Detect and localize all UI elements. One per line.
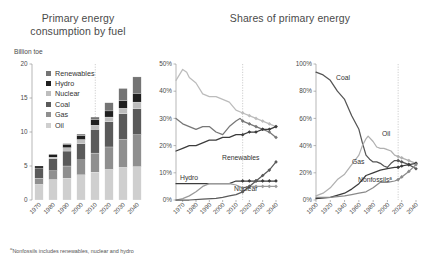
- series-marker-oil: [241, 111, 245, 115]
- bar-segment-hydro: [105, 111, 113, 117]
- line-chart-shares-century: 0%20%40%60%80%100%1900192019401960198020…: [292, 58, 430, 228]
- bar-segment-gas: [77, 160, 85, 175]
- x-tick-label: 1920: [319, 200, 334, 215]
- series-marker-gas: [267, 127, 271, 131]
- page-title-left: Primary energy consumption by fuel: [12, 12, 144, 37]
- series-line-gas: [176, 135, 243, 151]
- figure-root: Primary energy consumption by fuel Share…: [0, 0, 436, 268]
- y-tick-label: 10%: [159, 169, 172, 176]
- bar-segment-oil: [49, 180, 57, 200]
- legend-label: Nuclear: [55, 89, 80, 98]
- legend-swatch-icon: [46, 91, 51, 96]
- bar-segment-gas: [133, 135, 141, 167]
- legend-label: Hydro: [55, 79, 74, 88]
- x-tick-label: 1980: [42, 200, 57, 215]
- series-marker-oil: [396, 155, 400, 159]
- x-tick-label: 1940: [333, 200, 348, 215]
- bar-segment-nuclear: [119, 108, 127, 113]
- series-marker-nuclear: [274, 185, 278, 189]
- x-tick-label: 2020: [238, 200, 253, 215]
- bar-segment-gas: [119, 139, 127, 167]
- legend-item-gas: Gas: [46, 110, 95, 120]
- bar-segment-coal: [105, 122, 113, 147]
- series-marker-oil: [247, 114, 251, 118]
- legend-swatch-icon: [46, 102, 51, 107]
- x-tick-label: 1990: [198, 200, 213, 215]
- series-marker-coal: [400, 160, 404, 164]
- series-label-nonfossils: Nonfossilsa: [358, 176, 392, 183]
- y-tick-label: 0%: [303, 196, 313, 203]
- bar-segment-oil: [119, 167, 127, 200]
- footnote: aNonfossils includes renewables, nuclear…: [10, 246, 134, 254]
- series-marker-oil: [407, 159, 411, 163]
- y-tick-label: 15: [20, 94, 28, 101]
- series-line-coal: [316, 72, 398, 167]
- series-line-coal: [176, 118, 243, 134]
- x-tick-label: 2030: [112, 200, 127, 215]
- series-label-renewables: Renewables: [222, 154, 260, 161]
- y-tick-label: 20%: [159, 142, 172, 149]
- x-tick-label: 2000: [376, 200, 391, 215]
- series-line-oil: [243, 113, 276, 127]
- series-marker-hydro: [247, 179, 251, 183]
- series-marker-gas: [241, 133, 245, 137]
- bar-segment-coal: [119, 114, 127, 140]
- legend-swatch-icon: [46, 81, 51, 86]
- x-tick-label: 2040: [405, 200, 420, 215]
- legend-label: Renewables: [55, 69, 95, 78]
- bar-segment-nuclear: [49, 157, 57, 158]
- series-marker-coal: [247, 122, 251, 126]
- x-tick-label: 2040: [265, 200, 280, 215]
- x-tick-label: 1980: [362, 200, 377, 215]
- x-tick-label: 2010: [225, 200, 240, 215]
- series-marker-coal: [254, 125, 258, 129]
- y-tick-label: 50%: [159, 60, 172, 67]
- bar-segment-gas: [63, 166, 71, 178]
- series-label-gas: Gas: [352, 158, 365, 165]
- bar-segment-oil: [105, 169, 113, 200]
- bar-segment-hydro: [77, 135, 85, 139]
- legend-item-oil: Oil: [46, 120, 95, 130]
- x-tick-label: 2000: [70, 200, 85, 215]
- series-label-coal: Coal: [336, 74, 350, 81]
- series-marker-gas: [396, 166, 400, 170]
- y-tick-label: 5: [24, 162, 28, 169]
- bar-segment-nuclear: [105, 117, 113, 122]
- legend-item-coal: Coal: [46, 99, 95, 109]
- bar-segment-hydro: [35, 166, 43, 168]
- bar-segment-coal: [133, 109, 141, 135]
- series-line-renewables: [176, 192, 243, 200]
- series-marker-oil: [267, 122, 271, 126]
- bar-segment-renewables: [133, 77, 141, 93]
- bar-segment-nuclear: [63, 148, 71, 151]
- legend-swatch-icon: [46, 123, 51, 128]
- bar-segment-gas: [49, 171, 57, 180]
- bar-segment-coal: [63, 151, 71, 166]
- series-marker-hydro: [241, 179, 245, 183]
- series-label-nuclear: Nuclear: [234, 185, 258, 192]
- x-tick-label: 1980: [185, 200, 200, 215]
- series-line-nuclear: [176, 184, 243, 200]
- series-marker-oil: [400, 156, 404, 160]
- bar-segment-coal: [91, 129, 99, 153]
- bar-segment-hydro: [119, 101, 127, 108]
- bar-segment-gas: [105, 147, 113, 169]
- y-tick-label: 30%: [159, 115, 172, 122]
- bar-segment-oil: [91, 172, 99, 200]
- bar-segment-renewables: [105, 103, 113, 111]
- fuel-legend: RenewablesHydroNuclearCoalGasOil: [46, 68, 95, 130]
- legend-label: Coal: [55, 100, 70, 109]
- x-tick-label: 1990: [56, 200, 71, 215]
- x-tick-label: 2030: [251, 200, 266, 215]
- series-marker-hydro: [274, 179, 278, 183]
- bar-segment-gas: [91, 153, 99, 172]
- series-marker-gas: [254, 130, 258, 134]
- bar-segment-nuclear: [77, 139, 85, 143]
- series-marker-oil: [254, 117, 258, 121]
- x-tick-label: 1960: [348, 200, 363, 215]
- series-label-hydro: Hydro: [180, 174, 198, 182]
- bar-segment-nuclear: [133, 102, 141, 109]
- y-tick-label: 80%: [299, 87, 312, 94]
- y-tick-label: 0%: [163, 196, 173, 203]
- series-marker-gas: [400, 164, 404, 168]
